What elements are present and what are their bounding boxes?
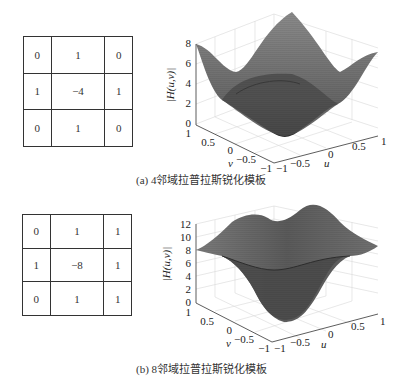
svg-text:0: 0 bbox=[227, 324, 233, 336]
svg-text:0: 0 bbox=[328, 328, 334, 340]
surface-plots: 0 2 4 6 8 |H(u,v)| 1 0.5 0 −0.5 −1 v −1 … bbox=[0, 0, 402, 379]
z-axis-ticks: 0 2 4 6 8 10 12 bbox=[180, 218, 192, 308]
svg-text:0: 0 bbox=[228, 144, 234, 156]
z-axis-label: |H(u,v)| bbox=[164, 68, 177, 102]
svg-text:0.5: 0.5 bbox=[201, 136, 215, 148]
z-axis-label: |H(u,v)| bbox=[160, 247, 173, 281]
caption-a: (a) 4邻域拉普拉斯锐化模板 bbox=[136, 171, 266, 187]
svg-text:0.5: 0.5 bbox=[351, 320, 365, 332]
z-axis-ticks: 0 2 4 6 8 bbox=[186, 37, 192, 129]
surface-plot-a: 0 2 4 6 8 |H(u,v)| 1 0.5 0 −0.5 −1 v −1 … bbox=[164, 12, 387, 174]
svg-text:8: 8 bbox=[186, 37, 192, 49]
svg-text:8: 8 bbox=[186, 244, 192, 256]
svg-text:4: 4 bbox=[186, 77, 192, 89]
svg-text:−0.5: −0.5 bbox=[236, 153, 256, 165]
v-axis-label: v bbox=[228, 157, 233, 169]
svg-text:0.5: 0.5 bbox=[200, 315, 214, 327]
v-axis-label: v bbox=[226, 337, 231, 349]
svg-text:1: 1 bbox=[186, 306, 192, 318]
u-axis-label: u bbox=[324, 157, 330, 169]
svg-text:−1: −1 bbox=[276, 162, 288, 174]
svg-text:−0.5: −0.5 bbox=[234, 333, 254, 345]
svg-text:1: 1 bbox=[381, 135, 387, 147]
svg-text:2: 2 bbox=[186, 283, 192, 295]
svg-text:1: 1 bbox=[186, 127, 192, 139]
svg-text:6: 6 bbox=[186, 257, 192, 269]
svg-text:2: 2 bbox=[186, 97, 192, 109]
u-axis-label: u bbox=[321, 338, 327, 350]
svg-text:−1: −1 bbox=[274, 342, 286, 354]
svg-text:−0.5: −0.5 bbox=[290, 157, 310, 169]
svg-text:6: 6 bbox=[186, 57, 192, 69]
caption-b: (b) 8邻域拉普拉斯锐化模板 bbox=[136, 360, 267, 376]
svg-text:4: 4 bbox=[186, 270, 192, 282]
svg-text:−1: −1 bbox=[258, 342, 270, 354]
svg-text:1: 1 bbox=[380, 315, 386, 327]
svg-text:10: 10 bbox=[180, 231, 192, 243]
svg-text:0.5: 0.5 bbox=[352, 140, 366, 152]
svg-text:12: 12 bbox=[180, 218, 191, 230]
svg-text:−0.5: −0.5 bbox=[290, 336, 310, 348]
surface-plot-b: 0 2 4 6 8 10 12 |H(u,v)| 1 0.5 0 −0.5 −1… bbox=[160, 205, 386, 354]
